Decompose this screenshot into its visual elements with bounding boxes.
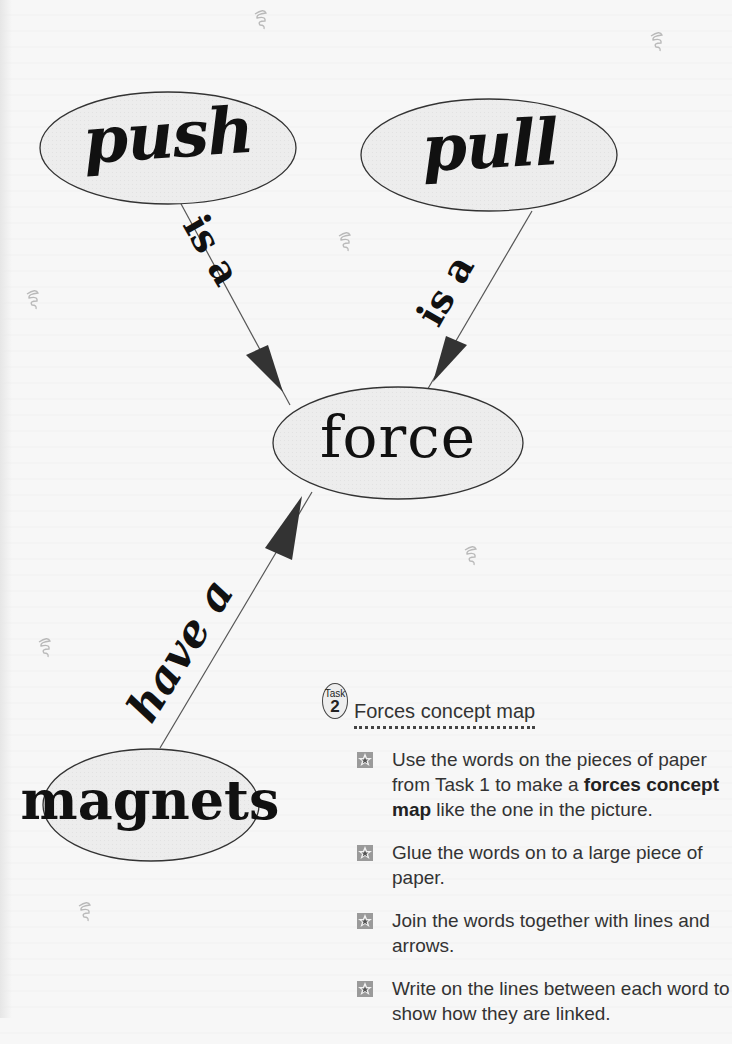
spring-swirl-icon [76, 900, 94, 924]
task-badge-number: 2 [323, 699, 347, 715]
task-title: Forces concept map [354, 700, 535, 729]
spring-swirl-icon [462, 544, 480, 568]
task-instruction-item: Use the words on the pieces of paper fro… [352, 747, 732, 822]
node-magnets-label: magnets [21, 768, 280, 832]
instruction-text: Join the words together with lines and a… [392, 910, 710, 956]
task-instruction-item: Join the words together with lines and a… [352, 908, 732, 958]
star-bullet-icon [356, 844, 374, 862]
star-bullet-icon [356, 980, 374, 998]
spring-swirl-icon [24, 288, 42, 312]
spring-swirl-icon [336, 230, 354, 254]
spring-swirl-icon [252, 8, 270, 32]
node-pull-label: pull [420, 104, 560, 186]
node-push-label: push [81, 92, 256, 179]
arrowhead-magnets-icon [265, 496, 302, 560]
spring-swirl-icon [36, 636, 54, 660]
task-instruction-item: Write on the lines between each word to … [352, 976, 732, 1026]
instruction-bold-text: forces concept [584, 774, 719, 795]
task-badge: Task 2 [322, 683, 348, 719]
instruction-text: Write on the lines between each word to … [392, 978, 730, 1024]
spring-swirl-icon [648, 30, 666, 54]
node-force-label: force [320, 403, 476, 471]
arrowhead-push-icon [246, 345, 283, 392]
instruction-text: Glue the words on to a large piece of pa… [392, 842, 703, 888]
task-instructions-list: Use the words on the pieces of paper fro… [352, 747, 732, 1044]
star-bullet-icon [356, 912, 374, 930]
arrowhead-pull-icon [433, 336, 467, 382]
task-instruction-item: Glue the words on to a large piece of pa… [352, 840, 732, 890]
instruction-text-part: like the one in the picture. [431, 799, 653, 820]
instruction-bold-text: map [392, 799, 431, 820]
star-bullet-icon [356, 751, 374, 769]
